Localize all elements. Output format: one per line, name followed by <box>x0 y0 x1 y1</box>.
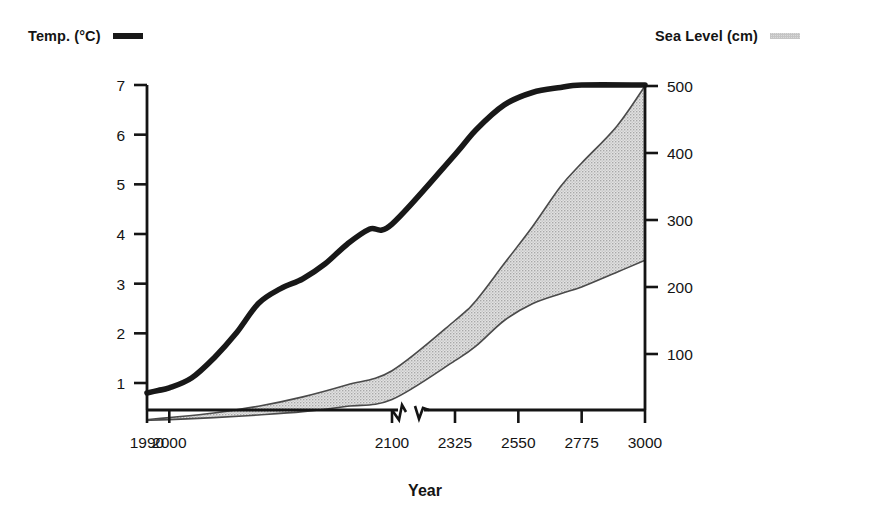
y-right-tick-label-300: 300 <box>667 212 693 229</box>
y-right-tick-label-100: 100 <box>667 346 693 363</box>
x-axis-title: Year <box>408 482 442 499</box>
y-left-tick-label-5: 5 <box>116 176 125 193</box>
y-right-tick-label-400: 400 <box>667 145 693 162</box>
chart-plot-area: 1234567 100200300400500 1990200021002325… <box>0 0 870 526</box>
chart-figure: Temp. (°C) Sea Level (cm) <box>0 0 870 526</box>
y-right-tick-label-500: 500 <box>667 78 693 95</box>
x-axis-break-symbol <box>392 405 429 420</box>
y-axis-right-ticks <box>645 86 658 354</box>
axis-break-left-zigzag <box>392 405 406 420</box>
y-left-tick-label-3: 3 <box>116 276 125 293</box>
x-tick-label-2325: 2325 <box>438 434 472 451</box>
y-axis-right-tick-labels: 100200300400500 <box>667 78 693 363</box>
sea-level-band-area <box>147 86 645 420</box>
y-left-tick-label-4: 4 <box>116 226 125 243</box>
x-tick-label-2775: 2775 <box>564 434 598 451</box>
x-tick-label-2000: 2000 <box>152 434 187 451</box>
y-axis-left-ticks <box>134 85 147 383</box>
x-tick-label-3000: 3000 <box>628 434 663 451</box>
y-right-tick-label-200: 200 <box>667 279 693 296</box>
x-axis-tick-labels: 1990200021002325255027753000 <box>130 434 663 451</box>
x-tick-label-2100: 2100 <box>375 434 410 451</box>
y-left-tick-label-7: 7 <box>116 77 125 94</box>
y-left-tick-label-6: 6 <box>116 127 125 144</box>
y-left-tick-label-1: 1 <box>116 375 125 392</box>
y-left-tick-label-2: 2 <box>116 325 125 342</box>
y-axis-left-tick-labels: 1234567 <box>116 77 125 392</box>
axis-break-right-zigzag <box>415 406 429 419</box>
x-tick-label-2550: 2550 <box>501 434 536 451</box>
